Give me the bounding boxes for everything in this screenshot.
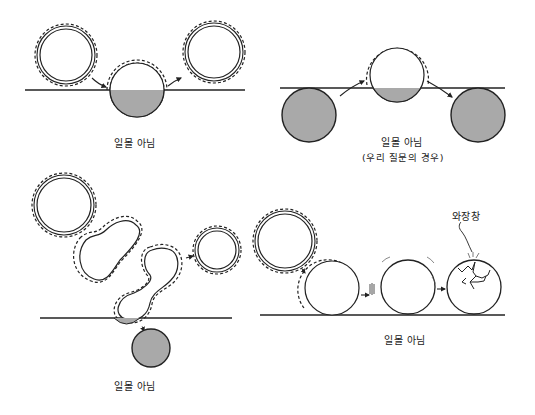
cracked-sphere-icon <box>447 252 501 314</box>
half-set-sun-icon <box>107 60 167 117</box>
sun-icon <box>367 48 429 102</box>
sun-icon <box>32 173 96 237</box>
panel-4-annotation: 와장창 <box>452 208 481 223</box>
panel-3-label: 일몰 아님 <box>114 378 156 393</box>
gray-sphere-icon <box>451 88 505 142</box>
arrow-icon <box>168 78 181 86</box>
panel-4 <box>253 209 505 315</box>
gray-sphere-icon <box>132 329 170 367</box>
sun-icon <box>183 21 245 83</box>
panel-3 <box>32 173 241 367</box>
panel-4-label: 일몰 아님 <box>384 332 426 347</box>
arrow-icon <box>92 78 106 87</box>
arrow-icon <box>427 81 452 97</box>
panel-2-sublabel: (우리 질문의 경우) <box>362 150 444 164</box>
panel-1-label: 일몰 아님 <box>114 135 156 150</box>
plain-sphere-icon <box>381 257 435 314</box>
panel-1 <box>25 21 245 117</box>
motion-lines-icon <box>370 283 374 295</box>
rolling-sun-icon <box>298 260 359 315</box>
gray-sphere-icon <box>282 88 336 142</box>
sun-icon <box>35 24 97 86</box>
panel-2 <box>280 48 505 142</box>
impact-lines-icon <box>468 252 479 258</box>
annotation-pointer <box>459 222 472 252</box>
sun-icon <box>253 209 317 273</box>
arrow-icon <box>186 256 193 258</box>
small-sun-icon <box>193 226 241 274</box>
panel-2-label: 일몰 아님 <box>381 134 423 149</box>
